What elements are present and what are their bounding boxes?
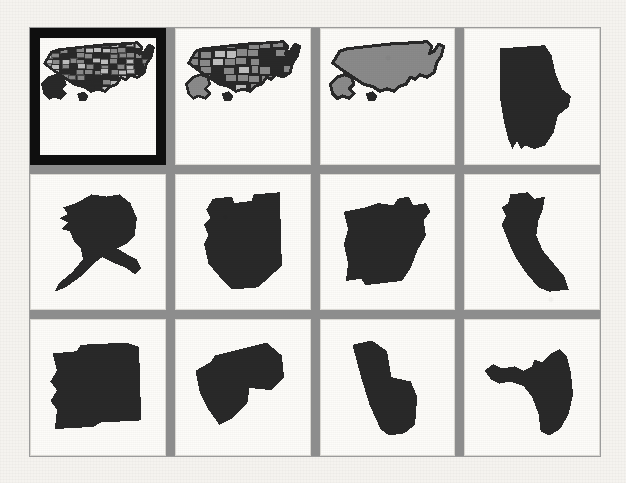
florida-map-icon (465, 320, 599, 455)
tile-surface (321, 29, 455, 164)
map-template-tile-florida[interactable] (464, 319, 600, 456)
california-map-icon (465, 175, 599, 310)
map-template-tile-california[interactable] (464, 174, 600, 311)
map-template-tile-united-states-outline[interactable] (320, 28, 456, 165)
tile-surface (465, 175, 599, 310)
tile-surface (465, 320, 599, 455)
alaska-map-icon (31, 175, 165, 310)
map-template-tile-united-states-counties[interactable] (30, 28, 166, 165)
map-template-tile-arkansas[interactable] (320, 174, 456, 311)
map-template-picker-panel (30, 28, 600, 456)
map-template-tile-alabama[interactable] (464, 28, 600, 165)
colorado-map-icon (31, 320, 165, 455)
tile-surface (176, 320, 310, 455)
alabama-map-icon (465, 29, 599, 164)
map-template-tile-united-states-states[interactable] (175, 28, 311, 165)
tile-surface (321, 175, 455, 310)
tile-surface (176, 175, 310, 310)
map-template-tile-alaska[interactable] (30, 174, 166, 311)
usa-counties-map-icon (40, 38, 156, 155)
map-template-tile-connecticut[interactable] (175, 319, 311, 456)
tile-surface (31, 320, 165, 455)
arkansas-map-icon (321, 175, 455, 310)
map-template-tile-arizona[interactable] (175, 174, 311, 311)
arizona-map-icon (176, 175, 310, 310)
delaware-map-icon (321, 320, 455, 455)
tile-surface (176, 29, 310, 164)
tile-surface (31, 175, 165, 310)
tile-surface (321, 320, 455, 455)
connecticut-map-icon (176, 320, 310, 455)
tile-surface (465, 29, 599, 164)
usa-states-map-icon (176, 29, 310, 164)
map-template-tile-colorado[interactable] (30, 319, 166, 456)
map-template-tile-delaware[interactable] (320, 319, 456, 456)
tile-surface (40, 38, 156, 155)
map-template-grid (30, 28, 600, 456)
usa-outline-map-icon (321, 29, 455, 164)
